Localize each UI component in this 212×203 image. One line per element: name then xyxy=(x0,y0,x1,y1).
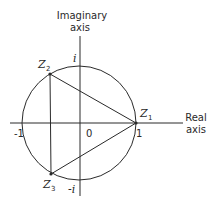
label-z1-name: Z xyxy=(139,107,148,120)
imaginary-axis-label-line2: axis xyxy=(70,22,90,33)
label-z3: Z 3 xyxy=(42,178,55,193)
tick-neg-real: -1 xyxy=(14,128,24,139)
real-axis-label-line1: Real xyxy=(185,112,207,123)
label-z2-sub: 2 xyxy=(46,65,50,73)
imaginary-axis-label-line1: Imaginary xyxy=(57,10,108,21)
complex-plane-diagram: Imaginary axis Real axis 0 1 -1 i -i Z 1… xyxy=(0,0,212,203)
tick-pos-imag: i xyxy=(73,52,77,65)
label-z3-sub: 3 xyxy=(51,185,55,193)
point-z3 xyxy=(49,172,52,175)
label-z1-sub: 1 xyxy=(148,114,152,122)
point-z1 xyxy=(134,121,137,124)
origin-label: 0 xyxy=(86,128,92,139)
tick-neg-imag: -i xyxy=(68,183,75,196)
label-z2: Z 2 xyxy=(37,58,50,73)
tick-pos-real: 1 xyxy=(136,128,142,139)
label-z2-name: Z xyxy=(37,58,46,71)
label-z3-name: Z xyxy=(42,178,51,191)
real-axis-label-line2: axis xyxy=(186,124,206,135)
label-z1: Z 1 xyxy=(139,107,152,122)
